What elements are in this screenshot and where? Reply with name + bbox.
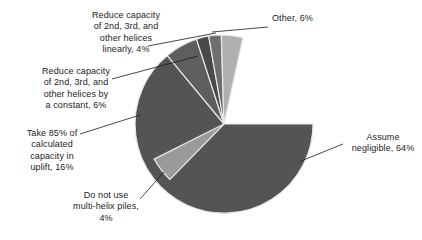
pie-slices xyxy=(135,35,313,213)
slice-label-assume-negligible: Assume negligible, 64% xyxy=(344,132,422,155)
pie-chart: Reduce capacity of 2nd, 3rd, and other h… xyxy=(0,0,422,240)
leader-line-other xyxy=(212,27,268,32)
slice-label-reduce-linearly: Reduce capacity of 2nd, 3rd, and other h… xyxy=(62,10,190,56)
slice-label-take-85-percent: Take 85% of calculated capacity in uplif… xyxy=(2,128,102,174)
pie-slice-other xyxy=(221,35,243,124)
slice-label-reduce-constant: Reduce capacity of 2nd, 3rd, and other h… xyxy=(12,66,140,112)
slice-label-other: Other, 6% xyxy=(272,13,372,24)
slice-label-do-not-use-multi-helix: Do not use multi-helix piles, 4% xyxy=(48,190,164,224)
